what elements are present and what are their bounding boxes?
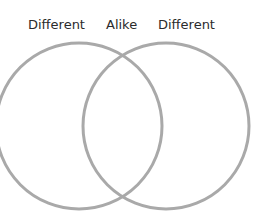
right-circle <box>83 43 249 209</box>
venn-diagram <box>0 0 260 216</box>
left-circle <box>0 43 162 209</box>
